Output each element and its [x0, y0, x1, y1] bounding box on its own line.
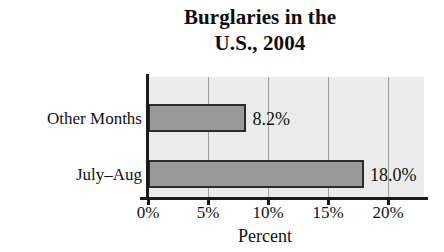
tick-label-20pct: 20%	[358, 204, 418, 222]
category-label-july-aug: July–Aug	[24, 166, 142, 183]
tick-label-5pct: 5%	[178, 204, 238, 222]
bar-other-months	[148, 104, 246, 132]
tick-label-10pct: 10%	[238, 204, 298, 222]
tick-label-15pct: 15%	[298, 204, 358, 222]
chart-title-line-1: Burglaries in the	[110, 4, 410, 30]
x-axis-title: Percent	[185, 226, 345, 246]
chart-title: Burglaries in the U.S., 2004	[110, 4, 410, 56]
y-axis-line	[146, 74, 149, 200]
chart-title-line-2: U.S., 2004	[110, 30, 410, 56]
x-axis-line	[140, 197, 428, 200]
category-label-other-months: Other Months	[24, 110, 142, 127]
tick-label-0pct: 0%	[118, 204, 178, 222]
chart-figure: Burglaries in the U.S., 2004 8.2% 18.0% …	[0, 0, 444, 252]
bar-july-aug	[148, 160, 364, 188]
bar-value-other-months: 8.2%	[252, 110, 290, 128]
bar-value-july-aug: 18.0%	[370, 166, 417, 184]
